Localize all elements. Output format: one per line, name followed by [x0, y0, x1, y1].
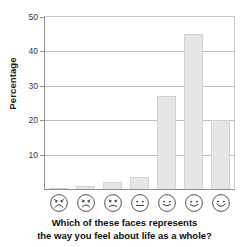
bar-slot [99, 17, 126, 189]
y-tick-label: 10 [8, 150, 38, 160]
face-very-unhappy-slot [45, 192, 72, 214]
y-tick-label: 50 [8, 12, 38, 22]
bar[interactable] [157, 96, 176, 189]
face-happy-icon [184, 193, 204, 213]
bar-slot [126, 17, 153, 189]
bar-chart-figure: Percentage 5040302010 Which of these fac… [0, 0, 249, 247]
y-tick-label: 40 [8, 46, 38, 56]
caption-line-2: the way you feel about life as a whole? [0, 230, 249, 243]
y-tick-label: 30 [8, 81, 38, 91]
caption-line-1: Which of these faces represents [0, 217, 249, 230]
bar-slot [45, 17, 72, 189]
bar[interactable] [130, 177, 149, 189]
face-slightly-happy-slot [153, 192, 180, 214]
bar[interactable] [76, 186, 95, 189]
bar[interactable] [211, 120, 230, 189]
y-tick-label: 20 [8, 115, 38, 125]
face-slightly-unhappy-icon [103, 193, 123, 213]
bar[interactable] [184, 34, 203, 189]
face-happy-slot [180, 192, 207, 214]
bar[interactable] [49, 188, 68, 189]
bar-slot [153, 17, 180, 189]
face-neutral-slot [126, 192, 153, 214]
bar-slot [207, 17, 234, 189]
face-unhappy-slot [72, 192, 99, 214]
face-unhappy-icon [76, 193, 96, 213]
face-very-happy-icon [211, 193, 231, 213]
bar-slot [180, 17, 207, 189]
chart-caption: Which of these faces represents the way … [0, 217, 249, 242]
face-slightly-happy-icon [157, 193, 177, 213]
x-axis-face-labels [45, 192, 234, 214]
face-very-happy-slot [207, 192, 234, 214]
face-neutral-icon [130, 193, 150, 213]
face-slightly-unhappy-slot [99, 192, 126, 214]
bar-series [45, 17, 234, 189]
bar[interactable] [103, 182, 122, 189]
bar-slot [72, 17, 99, 189]
face-very-unhappy-icon [49, 193, 69, 213]
